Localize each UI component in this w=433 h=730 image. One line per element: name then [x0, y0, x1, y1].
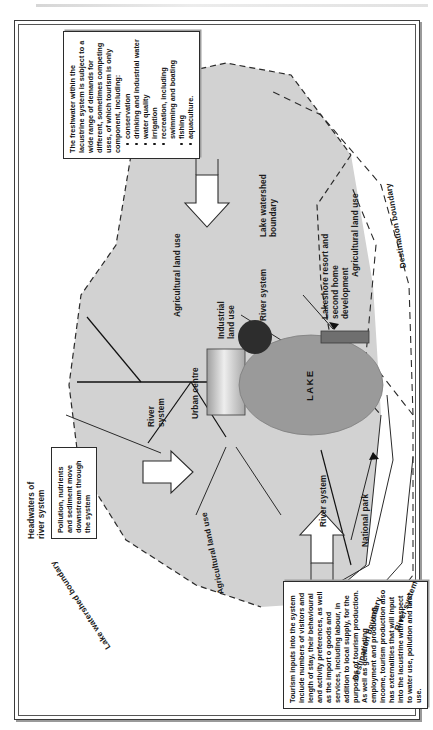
- note-freshwater: The freshwater within the lacustrine sys…: [63, 31, 200, 159]
- label-headwaters: Headwaters of river system: [27, 429, 47, 539]
- diagram-rotation-wrapper: Pollution, nutrients and sediment move d…: [21, 25, 413, 715]
- label-lake: LAKE: [305, 341, 315, 401]
- label-national-park: National park: [361, 477, 371, 547]
- note-pollution-text: Pollution, nutrients and sediment move d…: [56, 453, 92, 533]
- label-urban-centre: Urban centre: [191, 349, 201, 419]
- label-river-system-mid: River system: [259, 241, 269, 321]
- note-freshwater-item: aquaculture.: [186, 37, 195, 145]
- label-agricultural-land-use-2: Agricultural land use: [173, 207, 183, 317]
- page-frame: Pollution, nutrients and sediment move d…: [14, 20, 420, 720]
- label-lakeshore-resort: Lakeshore resort and second home develop…: [321, 213, 351, 319]
- note-freshwater-intro: The freshwater within the lacustrine sys…: [68, 37, 122, 153]
- note-pollution: Pollution, nutrients and sediment move d…: [51, 447, 97, 539]
- label-agricultural-land-use-3: Agricultural land use: [351, 167, 361, 277]
- note-freshwater-item: drinking and industrial water: [132, 37, 141, 145]
- diagram-canvas: Pollution, nutrients and sediment move d…: [21, 25, 413, 715]
- note-freshwater-item: irrigation: [150, 37, 159, 145]
- note-freshwater-item: fishing: [177, 37, 186, 145]
- scan-artefact: [36, 4, 428, 7]
- note-freshwater-item: water quality: [141, 37, 150, 145]
- note-freshwater-list: conservation drinking and industrial wat…: [123, 37, 195, 153]
- industrial-land-use-block: [238, 320, 272, 354]
- label-industrial-land-use: Industrial land use: [217, 279, 237, 339]
- label-river-system-main: River system: [147, 377, 167, 427]
- label-lake-watershed-boundary-right: Lake watershed boundary: [259, 141, 279, 237]
- lakeshore-resort-block: [321, 331, 369, 343]
- label-river-system-left: River system: [319, 447, 329, 527]
- note-freshwater-item: recreation, including swimming and boati…: [159, 37, 177, 145]
- note-freshwater-item: conservation: [123, 37, 132, 145]
